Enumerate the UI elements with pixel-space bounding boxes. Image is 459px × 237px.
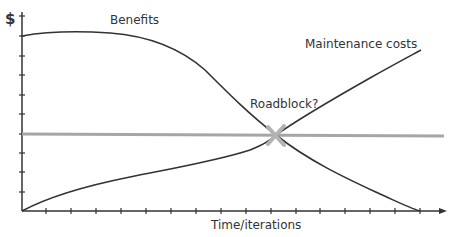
benefits-curve bbox=[22, 32, 420, 211]
maintenance-costs-curve bbox=[22, 50, 421, 211]
x-axis-label: Time/iterations bbox=[211, 218, 301, 232]
maintenance-costs-label: Maintenance costs bbox=[305, 37, 417, 51]
benefits-label: Benefits bbox=[110, 13, 159, 27]
roadblock-annotation: Roadblock? bbox=[250, 97, 318, 111]
x-axis-arrow-icon bbox=[439, 208, 447, 214]
chart-canvas bbox=[0, 0, 459, 237]
threshold-line bbox=[22, 134, 444, 136]
y-axis-label: $ bbox=[5, 10, 15, 28]
